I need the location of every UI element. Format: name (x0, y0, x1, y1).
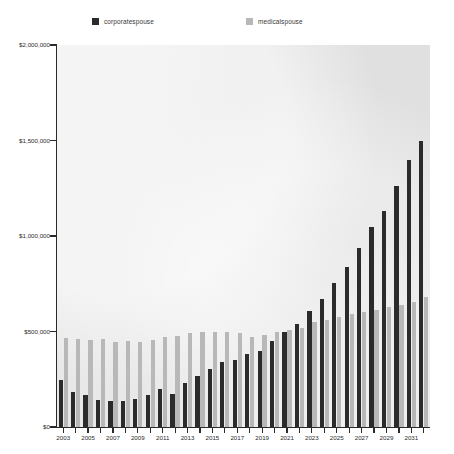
y-tick-mark (50, 44, 57, 45)
bar-medicalspouse-2006[interactable] (101, 339, 105, 427)
bar-medicalspouse-2030[interactable] (399, 305, 403, 427)
bar-corporatespouse-2006[interactable] (96, 400, 100, 427)
bar-medicalspouse-2029[interactable] (387, 307, 391, 427)
y-axis-label: $500,000 (0, 328, 51, 335)
x-tick-mark (249, 428, 250, 433)
bar-corporatespouse-2030[interactable] (394, 186, 398, 427)
bar-medicalspouse-2023[interactable] (312, 322, 316, 427)
bar-medicalspouse-2012[interactable] (175, 336, 179, 427)
x-axis-label: 2017 (230, 434, 244, 441)
bar-corporatespouse-2029[interactable] (382, 211, 386, 427)
x-axis-label: 2003 (56, 434, 70, 441)
y-axis-label: $1,500,000 (0, 137, 51, 144)
bar-medicalspouse-2022[interactable] (300, 328, 304, 427)
bar-corporatespouse-2019[interactable] (258, 351, 262, 427)
bar-medicalspouse-2016[interactable] (225, 332, 229, 428)
bar-corporatespouse-2028[interactable] (369, 227, 373, 427)
bar-corporatespouse-2005[interactable] (83, 395, 87, 427)
bar-corporatespouse-2032[interactable] (419, 141, 423, 428)
bar-corporatespouse-2004[interactable] (71, 392, 75, 427)
bar-corporatespouse-2012[interactable] (170, 394, 174, 427)
square-swatch-icon (92, 18, 99, 25)
x-axis-label: 2019 (255, 434, 269, 441)
x-tick-mark (150, 428, 151, 433)
x-tick-mark (63, 428, 64, 433)
bar-medicalspouse-2017[interactable] (238, 333, 242, 427)
bar-corporatespouse-2009[interactable] (133, 399, 137, 427)
bar-corporatespouse-2017[interactable] (233, 360, 237, 427)
x-axis-label: 2023 (305, 434, 319, 441)
bar-medicalspouse-2004[interactable] (76, 339, 80, 427)
bar-medicalspouse-2020[interactable] (275, 332, 279, 427)
bar-corporatespouse-2018[interactable] (245, 354, 249, 427)
x-tick-mark (100, 428, 101, 433)
bar-series-container (57, 45, 430, 427)
bar-medicalspouse-2026[interactable] (350, 314, 354, 427)
bar-corporatespouse-2026[interactable] (345, 267, 349, 427)
chart-root: corporatespouse medicalspouse $2,000,000… (0, 0, 454, 454)
bar-medicalspouse-2008[interactable] (126, 341, 130, 427)
bar-medicalspouse-2014[interactable] (200, 332, 204, 428)
bar-corporatespouse-2007[interactable] (108, 401, 112, 427)
bar-corporatespouse-2016[interactable] (220, 362, 224, 427)
bar-medicalspouse-2009[interactable] (138, 342, 142, 427)
y-tick-mark (50, 426, 57, 427)
x-axis-label: 2021 (280, 434, 294, 441)
legend-item-medicalspouse[interactable]: medicalspouse (246, 13, 303, 29)
y-axis-label: $2,000,000 (0, 41, 51, 48)
bar-medicalspouse-2015[interactable] (213, 332, 217, 427)
bar-medicalspouse-2010[interactable] (151, 340, 155, 427)
x-tick-mark (398, 428, 399, 433)
x-tick-mark (311, 428, 312, 433)
x-axis-label: 2029 (380, 434, 394, 441)
bar-corporatespouse-2014[interactable] (195, 376, 199, 427)
x-tick-mark (125, 428, 126, 433)
bar-medicalspouse-2005[interactable] (88, 340, 92, 427)
bar-corporatespouse-2020[interactable] (270, 341, 274, 427)
y-tick-mark (50, 235, 57, 236)
y-axis-label: $0 (0, 423, 51, 430)
x-tick-mark (212, 428, 213, 433)
x-tick-mark (162, 428, 163, 433)
x-tick-mark (87, 428, 88, 433)
bar-corporatespouse-2011[interactable] (158, 389, 162, 427)
bar-corporatespouse-2021[interactable] (282, 332, 286, 428)
square-swatch-icon (246, 18, 253, 25)
x-tick-mark (286, 428, 287, 433)
bar-medicalspouse-2021[interactable] (287, 330, 291, 427)
bar-medicalspouse-2031[interactable] (412, 302, 416, 427)
bar-medicalspouse-2007[interactable] (113, 342, 117, 427)
bar-medicalspouse-2003[interactable] (64, 338, 68, 427)
bar-medicalspouse-2025[interactable] (337, 317, 341, 427)
bar-corporatespouse-2024[interactable] (320, 299, 324, 427)
x-tick-mark (175, 428, 176, 433)
bar-corporatespouse-2010[interactable] (146, 395, 150, 427)
x-axis-label: 2011 (156, 434, 169, 441)
bar-medicalspouse-2019[interactable] (262, 335, 266, 427)
bar-corporatespouse-2022[interactable] (295, 324, 299, 427)
bar-corporatespouse-2013[interactable] (183, 383, 187, 427)
x-axis-label: 2025 (330, 434, 344, 441)
bar-medicalspouse-2027[interactable] (362, 312, 366, 427)
legend-label: corporatespouse (104, 18, 154, 25)
bar-corporatespouse-2008[interactable] (121, 401, 125, 427)
bar-medicalspouse-2018[interactable] (250, 337, 254, 427)
plot-area (57, 45, 430, 427)
bar-corporatespouse-2027[interactable] (357, 248, 361, 427)
bar-medicalspouse-2013[interactable] (188, 333, 192, 427)
x-tick-mark (411, 428, 412, 433)
bar-corporatespouse-2031[interactable] (407, 160, 411, 427)
legend-item-corporatespouse[interactable]: corporatespouse (92, 13, 154, 29)
bar-corporatespouse-2025[interactable] (332, 283, 336, 427)
x-axis-label: 2015 (206, 434, 220, 441)
bar-corporatespouse-2003[interactable] (59, 380, 63, 427)
bar-corporatespouse-2015[interactable] (208, 369, 212, 427)
bar-medicalspouse-2028[interactable] (374, 310, 378, 427)
bar-medicalspouse-2032[interactable] (424, 297, 428, 427)
bar-medicalspouse-2011[interactable] (163, 337, 167, 427)
bar-corporatespouse-2023[interactable] (307, 311, 311, 428)
x-tick-mark (386, 428, 387, 433)
y-tick-mark (50, 331, 57, 332)
bar-medicalspouse-2024[interactable] (325, 320, 329, 427)
x-tick-mark (274, 428, 275, 433)
